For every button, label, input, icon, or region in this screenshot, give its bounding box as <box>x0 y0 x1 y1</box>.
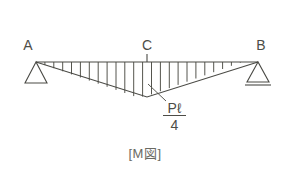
moment-value-numerator: Pℓ <box>168 100 182 116</box>
bending-moment-diagram: A C B Pℓ 4 [M図] <box>0 0 289 174</box>
label-support-a: A <box>23 37 33 53</box>
moment-outline <box>36 62 258 97</box>
label-midspan-c: C <box>142 37 152 53</box>
support-pin-a <box>25 62 47 83</box>
leader-line <box>148 84 166 101</box>
label-support-b: B <box>256 37 265 53</box>
moment-value-denominator: 4 <box>171 117 179 133</box>
figure-canvas: A C B Pℓ 4 [M図] <box>0 0 289 174</box>
figure-caption: [M図] <box>128 146 161 161</box>
moment-hatch-group <box>45 62 240 97</box>
